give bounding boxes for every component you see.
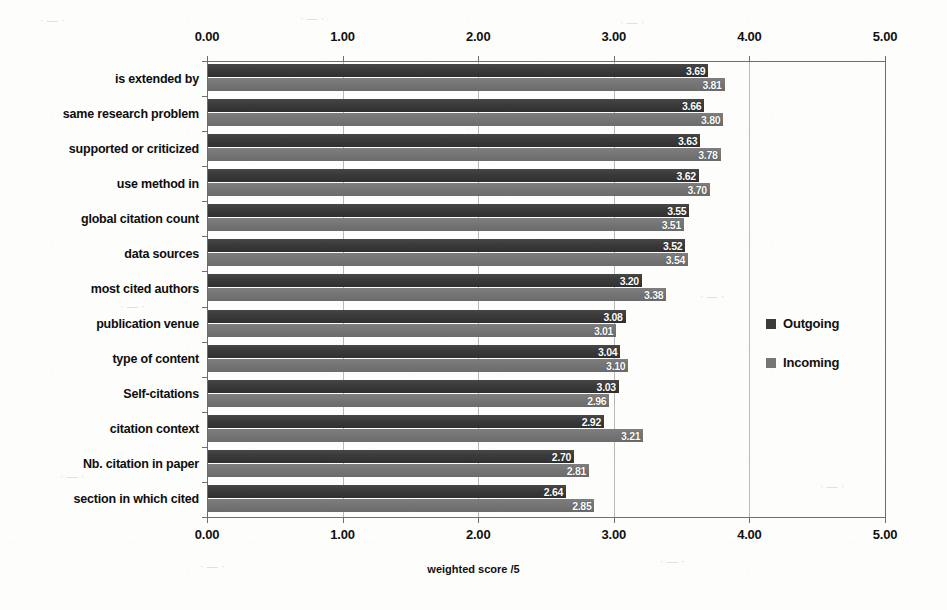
bar-value-label: 2.64 (544, 486, 563, 497)
bar-incoming-7: 3.01 (208, 324, 616, 337)
x-tick-label-bottom-3: 3.00 (584, 527, 644, 542)
bar-value-label: 3.54 (666, 254, 685, 265)
bar-value-label: 3.08 (603, 311, 622, 322)
legend-label: Outgoing (783, 316, 839, 331)
category-label-5: data sources (4, 247, 199, 261)
bar-value-label: 2.81 (567, 465, 586, 476)
scan-artifact: · — · (620, 16, 644, 28)
scan-artifact: · — · (700, 290, 724, 302)
x-axis-title: weighted score /5 (0, 563, 947, 575)
x-tick-label-top-0: 0.00 (177, 29, 237, 44)
bar-outgoing-4: 3.55 (208, 204, 689, 217)
category-label-2: supported or criticized (4, 142, 199, 156)
category-label-1: same research problem (4, 107, 199, 121)
bar-outgoing-11: 2.70 (208, 450, 574, 463)
axis-tick (614, 518, 615, 523)
bar-value-label: 3.63 (678, 135, 697, 146)
bar-value-label: 3.52 (663, 240, 682, 251)
x-tick-label-top-2: 2.00 (448, 29, 508, 44)
scan-background-bleed: · — ·· — ·· — ·· — ·· — ·· — ·· — ·· — ·… (0, 0, 947, 610)
category-label-6: most cited authors (4, 282, 199, 296)
bar-value-label: 3.01 (594, 325, 613, 336)
axis-tick (885, 518, 886, 523)
category-label-4: global citation count (4, 212, 199, 226)
bar-outgoing-7: 3.08 (208, 310, 626, 323)
bar-outgoing-8: 3.04 (208, 345, 620, 358)
x-tick-label-top-5: 5.00 (855, 29, 915, 44)
bar-value-label: 2.96 (587, 395, 606, 406)
bar-outgoing-1: 3.66 (208, 99, 704, 112)
bar-value-label: 3.20 (620, 275, 639, 286)
bar-value-label: 3.70 (687, 184, 706, 195)
bar-incoming-2: 3.78 (208, 148, 721, 161)
bar-value-label: 2.85 (572, 500, 591, 511)
bar-value-label: 3.04 (598, 346, 617, 357)
bar-value-label: 3.66 (682, 100, 701, 111)
x-tick-label-bottom-2: 2.00 (448, 527, 508, 542)
bar-incoming-5: 3.54 (208, 253, 688, 266)
category-label-12: section in which cited (4, 492, 199, 506)
scan-artifact: · — · (120, 300, 144, 312)
bar-outgoing-3: 3.62 (208, 169, 699, 182)
x-tick-label-bottom-1: 1.00 (313, 527, 373, 542)
category-label-0: is extended by (4, 72, 199, 86)
bar-value-label: 3.38 (644, 289, 663, 300)
legend-item-incoming: Incoming (766, 355, 839, 370)
legend-item-outgoing: Outgoing (766, 316, 839, 331)
bar-value-label: 3.81 (702, 79, 721, 90)
scan-artifact: · — · (820, 480, 844, 492)
scan-artifact: · — · (300, 12, 324, 24)
bar-incoming-12: 2.85 (208, 499, 594, 512)
bar-outgoing-12: 2.64 (208, 485, 566, 498)
x-tick-label-bottom-0: 0.00 (177, 527, 237, 542)
axis-tick (478, 518, 479, 523)
legend-swatch-outgoing-icon (766, 319, 776, 329)
x-tick-label-top-4: 4.00 (719, 29, 779, 44)
x-tick-label-bottom-5: 5.00 (855, 527, 915, 542)
bar-incoming-10: 3.21 (208, 429, 643, 442)
bar-chart: · — ·· — ·· — ·· — ·· — ·· — ·· — ·· — ·… (0, 0, 947, 610)
bar-incoming-8: 3.10 (208, 359, 628, 372)
bar-value-label: 3.51 (662, 219, 681, 230)
bar-value-label: 3.69 (686, 65, 705, 76)
scan-artifact: · — · (60, 470, 84, 482)
scan-grain-overlay (0, 0, 947, 610)
bar-incoming-1: 3.80 (208, 113, 723, 126)
bar-value-label: 2.92 (582, 416, 601, 427)
gridline (749, 61, 750, 517)
legend-label: Incoming (783, 355, 839, 370)
category-label-3: use method in (4, 177, 199, 191)
bar-incoming-0: 3.81 (208, 78, 725, 91)
axis-tick (749, 518, 750, 523)
bar-incoming-11: 2.81 (208, 464, 589, 477)
bar-value-label: 3.62 (677, 170, 696, 181)
bar-outgoing-6: 3.20 (208, 274, 642, 287)
category-label-7: publication venue (4, 317, 199, 331)
bar-value-label: 3.21 (621, 430, 640, 441)
axis-tick (207, 518, 208, 523)
scan-artifact: · — · (40, 14, 64, 26)
category-label-8: type of content (4, 352, 199, 366)
bar-incoming-3: 3.70 (208, 183, 710, 196)
bar-value-label: 3.80 (701, 114, 720, 125)
axis-tick (343, 518, 344, 523)
bar-value-label: 3.03 (597, 381, 616, 392)
bar-outgoing-5: 3.52 (208, 239, 685, 252)
category-label-10: citation context (4, 422, 199, 436)
category-label-9: Self-citations (4, 387, 199, 401)
category-label-11: Nb. citation in paper (4, 457, 199, 471)
bar-value-label: 2.70 (552, 451, 571, 462)
bar-outgoing-0: 3.69 (208, 64, 708, 77)
x-tick-label-bottom-4: 4.00 (719, 527, 779, 542)
bar-value-label: 3.10 (606, 360, 625, 371)
axis-line-bottom (207, 517, 886, 518)
legend-swatch-incoming-icon (766, 358, 776, 368)
bar-incoming-4: 3.51 (208, 218, 684, 231)
bar-outgoing-9: 3.03 (208, 380, 619, 393)
bar-outgoing-2: 3.63 (208, 134, 700, 147)
bar-value-label: 3.78 (698, 149, 717, 160)
x-tick-label-top-1: 1.00 (313, 29, 373, 44)
bar-outgoing-10: 2.92 (208, 415, 604, 428)
axis-line-right (885, 61, 886, 517)
bar-incoming-9: 2.96 (208, 394, 609, 407)
